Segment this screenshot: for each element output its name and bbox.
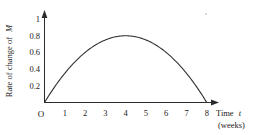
x-tick-label: 7 (184, 108, 188, 118)
y-axis-title-variable: M (4, 24, 14, 33)
x-tick-label: 4 (123, 108, 128, 118)
chart-figure: 0.2 0.4 0.6 0.8 1 O 1 2 3 4 5 6 7 8 Time… (0, 0, 260, 135)
y-tick-label: 0.2 (29, 81, 40, 91)
data-curve-line (45, 36, 207, 103)
y-axis-title: Rate of change of M (4, 24, 14, 97)
x-tick-label: 2 (83, 108, 87, 118)
x-axis (45, 100, 220, 106)
x-axis-tick-labels: 1 2 3 4 5 6 7 8 (63, 108, 209, 118)
x-tick-label: 1 (63, 108, 67, 118)
x-axis-arrow-icon (211, 100, 219, 106)
y-axis-arrow-icon (42, 10, 48, 18)
x-tick-label: 5 (144, 108, 148, 118)
origin-label: O (38, 109, 45, 119)
x-axis-title: Time t (weeks) (216, 108, 245, 130)
x-tick-label: 3 (103, 108, 107, 118)
y-tick-label: 0.8 (29, 31, 40, 41)
scan-artifact-speck (205, 13, 207, 15)
y-axis (42, 10, 48, 103)
x-axis-title-variable: t (239, 108, 242, 118)
x-tick-label: 6 (164, 108, 168, 118)
y-tick-label: 1 (36, 14, 40, 24)
y-tick-label: 0.6 (29, 47, 40, 57)
x-axis-title-main: Time (216, 108, 234, 118)
x-tick-label: 8 (205, 108, 209, 118)
x-axis-title-unit: (weeks) (218, 120, 245, 130)
y-axis-title-main: Rate of change of (4, 37, 14, 97)
rate-of-change-curve-chart: 0.2 0.4 0.6 0.8 1 O 1 2 3 4 5 6 7 8 Time… (0, 0, 260, 135)
x-axis-title-line1: Time t (216, 108, 242, 118)
y-axis-tick-labels: 0.2 0.4 0.6 0.8 1 (29, 14, 40, 90)
y-tick-label: 0.4 (29, 64, 40, 74)
